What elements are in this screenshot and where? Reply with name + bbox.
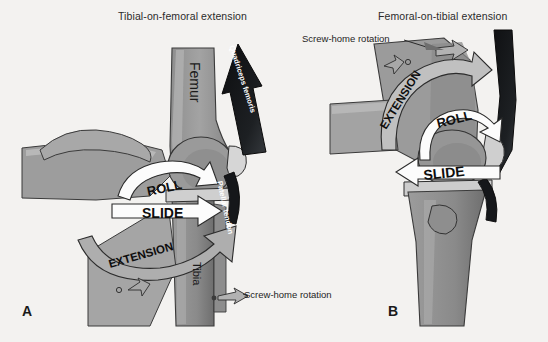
tibia-label: Tibia	[191, 262, 203, 285]
tibia-pivot-a	[212, 296, 217, 301]
slide-label-a: SLIDE	[142, 205, 183, 221]
screw-home-callout-b: Screw-home rotation	[302, 33, 390, 44]
panel-b-letter: B	[388, 303, 398, 319]
panel-a-letter: A	[22, 303, 32, 319]
panel-a-title: Tibial-on-femoral extension	[118, 10, 247, 22]
tibial-tuberosity-b	[428, 205, 457, 234]
panel-b-illustration: ROLL SLIDE EXTENSION	[330, 30, 516, 326]
panel-a-illustration: ROLL SLIDE EXTENSION	[22, 44, 266, 326]
anatomical-figure: ROLL SLIDE EXTENSION	[0, 0, 548, 342]
screw-home-callout-a: Screw-home rotation	[244, 289, 332, 300]
femur-label: Femur	[187, 62, 203, 102]
panel-b-title: Femoral-on-tibial extension	[378, 10, 507, 22]
